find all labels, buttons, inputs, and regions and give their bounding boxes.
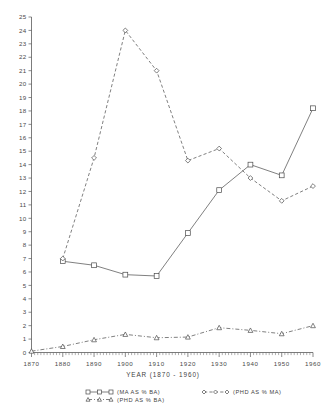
x-tick-label-1950: 1950 — [274, 360, 290, 367]
y-tick-label-9: 9 — [23, 228, 27, 235]
y-tick-label-25: 25 — [19, 13, 27, 20]
y-tick-label-1: 1 — [23, 335, 27, 342]
y-tick-label-3: 3 — [23, 308, 27, 315]
legend-label: (PHD AS % MA) — [233, 389, 282, 395]
legend-item-0: (MA AS % BA) — [86, 389, 160, 395]
series-line — [63, 30, 313, 258]
x-tick-label-1940: 1940 — [242, 360, 258, 367]
y-tick-label-17: 17 — [19, 121, 27, 128]
legend-label: (MA AS % BA) — [117, 389, 160, 395]
y-tick-label-2: 2 — [23, 322, 27, 329]
y-tick-label-13: 13 — [19, 174, 27, 181]
legend-marker-square-icon — [86, 390, 90, 394]
data-point — [185, 158, 190, 163]
x-tick-label-1870: 1870 — [23, 360, 39, 367]
y-tick-label-7: 7 — [23, 255, 27, 262]
y-tick-label-6: 6 — [23, 268, 27, 275]
y-tick-label-21: 21 — [19, 67, 27, 74]
data-point — [311, 106, 316, 111]
data-point — [311, 184, 316, 189]
series-2 — [29, 323, 315, 353]
data-point — [248, 162, 253, 167]
data-point — [154, 274, 159, 279]
chart-container: 0123456789101112131415161718192021222324… — [0, 0, 326, 410]
y-tick-label-10: 10 — [19, 215, 27, 222]
y-tick-label-24: 24 — [19, 27, 27, 34]
y-tick-label-11: 11 — [19, 201, 26, 208]
x-tick-label-1920: 1920 — [180, 360, 196, 367]
data-point — [154, 68, 159, 73]
y-tick-label-4: 4 — [23, 295, 27, 302]
data-point — [123, 332, 128, 336]
y-tick-label-15: 15 — [19, 147, 27, 154]
x-tick-label-1960: 1960 — [305, 360, 321, 367]
y-tick-label-18: 18 — [19, 107, 27, 114]
y-tick-label-16: 16 — [19, 134, 27, 141]
y-tick-label-0: 0 — [23, 349, 27, 356]
legend-item-2: (PHD AS % BA) — [86, 397, 165, 403]
data-point — [279, 198, 284, 203]
y-tick-label-5: 5 — [23, 282, 27, 289]
line-chart: 0123456789101112131415161718192021222324… — [0, 0, 326, 410]
chart-legend: (MA AS % BA)(PHD AS % MA)(PHD AS % BA) — [86, 389, 282, 403]
legend-marker-diamond-icon — [202, 390, 206, 394]
y-tick-label-12: 12 — [19, 188, 27, 195]
data-point — [311, 323, 316, 327]
data-series-layer — [29, 28, 315, 353]
y-tick-label-23: 23 — [19, 40, 27, 47]
series-1 — [60, 28, 315, 261]
series-line — [32, 326, 314, 352]
legend-marker-square-icon — [109, 390, 113, 394]
x-tick-label-1880: 1880 — [55, 360, 71, 367]
data-point — [123, 272, 128, 277]
legend-marker-square-icon — [98, 390, 102, 394]
data-point — [279, 173, 284, 178]
x-axis-tick-labels: 1870188018901900191019201930194019501960 — [23, 360, 321, 367]
x-tick-label-1910: 1910 — [149, 360, 165, 367]
legend-item-1: (PHD AS % MA) — [202, 389, 282, 395]
series-0 — [60, 106, 315, 279]
data-point — [185, 231, 190, 236]
x-tick-label-1900: 1900 — [117, 360, 133, 367]
data-point — [217, 188, 222, 193]
y-tick-label-8: 8 — [23, 241, 27, 248]
y-tick-label-14: 14 — [19, 161, 27, 168]
data-point — [92, 156, 97, 161]
x-tick-label-1890: 1890 — [86, 360, 102, 367]
x-tick-label-1930: 1930 — [211, 360, 227, 367]
legend-marker-diamond-icon — [225, 390, 229, 394]
data-point — [248, 328, 253, 332]
y-tick-label-22: 22 — [19, 53, 27, 60]
x-axis-minor-ticks — [32, 353, 314, 358]
y-axis-ticks — [29, 17, 32, 353]
y-axis-tick-labels: 0123456789101112131415161718192021222324… — [19, 13, 27, 356]
data-point — [92, 263, 97, 268]
legend-marker-diamond-icon — [214, 390, 218, 394]
y-tick-label-20: 20 — [19, 80, 27, 87]
legend-label: (PHD AS % BA) — [117, 397, 165, 403]
y-tick-label-19: 19 — [19, 94, 27, 101]
x-axis-title: YEAR (1870 - 1960) — [126, 371, 200, 379]
